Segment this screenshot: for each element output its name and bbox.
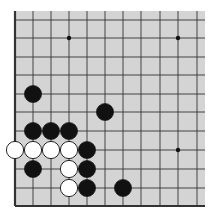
black-stone[interactable] [24, 160, 41, 177]
black-stone[interactable] [24, 85, 41, 102]
star-point [176, 148, 180, 152]
black-stone[interactable] [78, 141, 95, 158]
black-stone[interactable] [96, 103, 113, 120]
black-stone[interactable] [78, 160, 95, 177]
black-stone[interactable] [60, 122, 77, 139]
black-stone[interactable] [24, 122, 41, 139]
black-stone[interactable] [78, 179, 95, 196]
white-stone[interactable] [60, 179, 77, 196]
star-point [67, 36, 71, 40]
white-stone[interactable] [60, 141, 77, 158]
white-stone[interactable] [6, 141, 23, 158]
white-stone[interactable] [60, 160, 77, 177]
white-stone[interactable] [24, 141, 41, 158]
go-board [0, 0, 216, 213]
black-stone[interactable] [42, 122, 59, 139]
black-stone[interactable] [114, 179, 131, 196]
star-point [176, 36, 180, 40]
white-stone[interactable] [42, 141, 59, 158]
